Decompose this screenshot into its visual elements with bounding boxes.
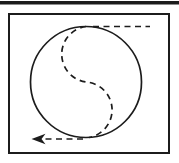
paper-background [0, 0, 179, 163]
top-rule [0, 1, 179, 5]
diagram-canvas [0, 0, 179, 163]
cycle-diagram-figure [0, 0, 179, 163]
